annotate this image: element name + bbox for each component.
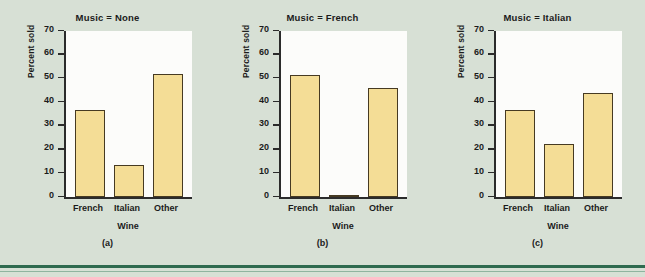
y-tick-label: 50 [259,71,269,81]
y-tick-label: 10 [259,166,269,176]
y-tick-label: 60 [44,47,54,57]
y-tick-label: 50 [474,71,484,81]
y-tick-label: 40 [44,95,54,105]
panel-title: Music = Italian [430,12,645,23]
bar-french [290,75,320,197]
y-tick: 40 [273,101,279,103]
panel-title: Music = French [215,12,430,23]
x-tick-label: French [281,203,325,213]
y-tick-label: 40 [259,95,269,105]
y-tick: 10 [58,172,64,174]
x-tick-label: French [66,203,110,213]
figure-container: Music = None Percent sold 0 10 20 30 [0,0,645,277]
y-tick-label: 60 [259,47,269,57]
y-tick: 60 [58,53,64,55]
y-tick: 10 [273,172,279,174]
y-tick-label: 70 [259,24,269,34]
y-tick: 50 [488,77,494,79]
y-tick: 60 [488,53,494,55]
y-tick: 40 [58,101,64,103]
y-tick-label: 70 [44,24,54,34]
bar-italian [329,195,359,197]
y-tick-label: 0 [49,190,54,200]
bar-italian [544,144,574,197]
y-tick-label: 60 [474,47,484,57]
y-tick: 10 [488,172,494,174]
bar-group [496,31,622,197]
bar-group [281,31,407,197]
y-tick-label: 40 [474,95,484,105]
chart-panel-a: Music = None Percent sold 0 10 20 30 [0,0,215,258]
bar-other [368,88,398,197]
y-tick: 20 [488,148,494,150]
chart-panel-c: Music = Italian Percent sold 0 10 20 30 [430,0,645,258]
y-tick: 30 [488,124,494,126]
x-axis-line [279,197,407,199]
x-axis-label: Wine [64,221,192,231]
x-tick-label: Other [144,203,188,213]
panel-caption: (a) [0,238,215,248]
y-tick: 70 [58,30,64,32]
y-axis-label: Percent sold [456,66,466,78]
y-tick-label: 70 [474,24,484,34]
y-axis-label: Percent sold [26,66,36,78]
y-tick: 0 [488,196,494,198]
y-tick-label: 50 [44,71,54,81]
x-tick-label: Other [359,203,403,213]
x-tick-label: Other [574,203,618,213]
y-tick: 70 [273,30,279,32]
plot-wrap: 0 10 20 30 40 50 60 70 [279,31,407,199]
panel-title: Music = None [0,12,215,23]
panel-row: Music = None Percent sold 0 10 20 30 [0,0,645,258]
y-tick-label: 20 [259,142,269,152]
bar-group [66,31,192,197]
plot-wrap: 0 10 20 30 40 50 60 70 [494,31,622,199]
y-tick-label: 10 [474,166,484,176]
footer-rule-light [0,271,645,272]
y-tick-label: 0 [479,190,484,200]
y-axis-label: Percent sold [241,66,251,78]
y-tick-label: 30 [44,118,54,128]
y-tick: 50 [58,77,64,79]
y-tick: 0 [58,196,64,198]
y-tick: 40 [488,101,494,103]
y-tick-label: 30 [259,118,269,128]
x-tick-label: French [496,203,540,213]
bar-other [153,74,183,197]
y-tick-label: 20 [474,142,484,152]
bar-french [75,110,105,197]
y-tick-label: 0 [264,190,269,200]
plot-wrap: 0 10 20 30 40 50 60 70 [64,31,192,199]
bar-french [505,110,535,197]
x-tick-label: Italian [105,203,149,213]
x-axis-line [64,197,192,199]
y-tick-label: 10 [44,166,54,176]
x-axis-line [494,197,622,199]
panel-caption: (b) [215,238,430,248]
y-tick: 20 [273,148,279,150]
x-tick-label: Italian [535,203,579,213]
y-tick: 0 [273,196,279,198]
y-tick-label: 20 [44,142,54,152]
y-tick: 50 [273,77,279,79]
x-axis-label: Wine [494,221,622,231]
chart-panel-b: Music = French Percent sold 0 10 20 30 [215,0,430,258]
x-tick-label: Italian [320,203,364,213]
bar-other [583,93,613,197]
y-tick: 70 [488,30,494,32]
y-tick: 60 [273,53,279,55]
y-tick: 30 [273,124,279,126]
y-tick: 30 [58,124,64,126]
panel-caption: (c) [430,238,645,248]
footer-rule [0,265,645,268]
y-tick-label: 30 [474,118,484,128]
x-axis-label: Wine [279,221,407,231]
bar-italian [114,165,144,197]
y-tick: 20 [58,148,64,150]
